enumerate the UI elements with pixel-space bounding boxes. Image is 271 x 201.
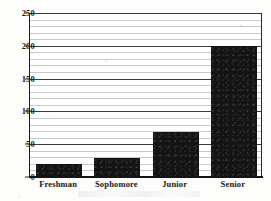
bars-group [30, 13, 261, 177]
scan-speck [105, 60, 107, 62]
y-axis-tick-mark [25, 13, 29, 14]
bar-junior [153, 132, 199, 177]
x-axis-label-senior: Senior [221, 179, 246, 189]
y-axis-tick-mark [25, 111, 29, 112]
y-axis-tick-mark [25, 144, 29, 145]
scan-artifact [78, 191, 200, 197]
y-axis-tick-mark [25, 78, 29, 79]
x-axis-label-freshman: Freshman [39, 179, 77, 189]
x-axis-line [29, 176, 263, 178]
x-axis-label-sophomore: Sophomore [95, 179, 138, 189]
y-axis-tick-label: 0 [31, 172, 35, 182]
bar-chart: 050100150200250 FreshmanSophomoreJuniorS… [0, 0, 271, 201]
x-axis-label-junior: Junior [162, 179, 187, 189]
bar-senior [211, 46, 257, 177]
scan-speck [18, 196, 20, 198]
plot-area [29, 13, 262, 177]
bar-sophomore [94, 158, 140, 177]
scan-speck [240, 25, 242, 27]
y-axis-tick-mark [25, 177, 29, 178]
y-axis-tick-mark [25, 45, 29, 46]
